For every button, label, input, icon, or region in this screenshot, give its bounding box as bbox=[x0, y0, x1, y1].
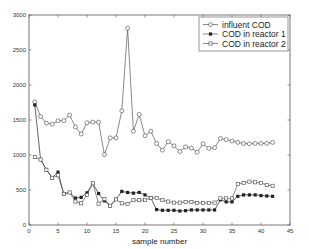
data-point bbox=[190, 200, 193, 203]
data-point bbox=[155, 141, 159, 145]
data-point bbox=[247, 142, 251, 146]
data-point bbox=[271, 140, 275, 144]
data-point bbox=[184, 200, 187, 203]
open-square-marker-icon bbox=[209, 42, 212, 45]
data-point bbox=[161, 199, 164, 202]
data-point bbox=[184, 209, 187, 212]
filled-square-marker-icon bbox=[209, 32, 212, 35]
data-point bbox=[50, 122, 54, 126]
x-tick-label: 10 bbox=[84, 228, 91, 234]
data-point bbox=[126, 26, 130, 30]
data-point bbox=[120, 202, 123, 205]
data-point bbox=[178, 150, 182, 154]
data-point bbox=[143, 199, 146, 202]
data-point bbox=[51, 176, 54, 179]
data-point bbox=[126, 202, 129, 205]
data-point bbox=[39, 158, 42, 161]
data-point bbox=[91, 182, 94, 185]
data-point bbox=[172, 144, 176, 148]
data-point bbox=[265, 194, 268, 197]
data-point bbox=[137, 112, 141, 116]
data-point bbox=[265, 141, 269, 145]
data-point bbox=[132, 192, 135, 195]
data-point bbox=[265, 184, 268, 187]
data-point bbox=[97, 192, 100, 195]
data-point bbox=[218, 137, 222, 141]
data-point bbox=[131, 129, 135, 133]
data-point bbox=[230, 139, 234, 143]
data-point bbox=[213, 201, 216, 204]
data-point bbox=[62, 192, 65, 195]
data-point bbox=[167, 200, 170, 203]
data-point bbox=[33, 103, 36, 106]
data-point bbox=[68, 191, 71, 194]
data-point bbox=[178, 209, 181, 212]
data-point bbox=[201, 208, 204, 211]
x-tick-label: 30 bbox=[200, 228, 207, 234]
legend: influent COD COD in reactor 1 COD in rea… bbox=[199, 17, 288, 51]
data-point bbox=[189, 146, 193, 150]
data-point bbox=[259, 141, 263, 145]
data-point bbox=[56, 171, 59, 174]
data-point bbox=[143, 193, 146, 196]
data-point bbox=[155, 196, 158, 199]
data-point bbox=[80, 202, 83, 205]
data-point bbox=[172, 209, 175, 212]
data-point bbox=[143, 134, 147, 138]
cod-line-chart: 050010001500200025003000 051015202530354… bbox=[0, 0, 309, 249]
data-point bbox=[248, 180, 251, 183]
data-point bbox=[254, 193, 257, 196]
data-point bbox=[248, 193, 251, 196]
data-point bbox=[33, 156, 36, 159]
data-point bbox=[236, 195, 239, 198]
data-point bbox=[33, 100, 37, 104]
x-axis-label: sample number bbox=[132, 237, 187, 246]
data-point bbox=[201, 142, 205, 146]
data-point bbox=[167, 209, 170, 212]
data-point bbox=[102, 153, 106, 157]
data-point bbox=[97, 120, 101, 124]
data-point bbox=[230, 197, 233, 200]
data-point bbox=[62, 119, 66, 123]
data-point bbox=[109, 204, 112, 207]
data-point bbox=[126, 191, 129, 194]
data-point bbox=[120, 190, 123, 193]
data-point bbox=[120, 109, 124, 113]
circle-marker-icon bbox=[209, 23, 213, 27]
data-point bbox=[80, 196, 83, 199]
x-tick-label: 15 bbox=[113, 228, 120, 234]
data-point bbox=[271, 184, 274, 187]
data-point bbox=[155, 208, 158, 211]
data-point bbox=[73, 125, 77, 129]
data-point bbox=[259, 181, 262, 184]
data-point bbox=[254, 181, 257, 184]
x-tick-label: 45 bbox=[287, 228, 294, 234]
data-point bbox=[39, 115, 43, 119]
data-point bbox=[160, 148, 164, 152]
data-point bbox=[91, 120, 95, 124]
data-point bbox=[149, 129, 153, 133]
data-point bbox=[56, 119, 60, 123]
data-point bbox=[74, 200, 77, 203]
data-point bbox=[161, 209, 164, 212]
data-point bbox=[213, 146, 217, 150]
data-point bbox=[196, 208, 199, 211]
data-point bbox=[68, 113, 72, 117]
y-tick-label: 2500 bbox=[13, 47, 27, 53]
data-point bbox=[242, 193, 245, 196]
data-point bbox=[224, 138, 228, 142]
data-point bbox=[108, 136, 112, 140]
legend-label: influent COD bbox=[222, 20, 271, 30]
data-point bbox=[230, 200, 233, 203]
data-point bbox=[236, 182, 239, 185]
data-point bbox=[184, 145, 188, 149]
data-point bbox=[114, 136, 118, 140]
data-point bbox=[242, 181, 245, 184]
legend-label: COD in reactor 1 bbox=[222, 29, 286, 39]
y-tick-label: 500 bbox=[16, 187, 27, 193]
data-point bbox=[195, 150, 199, 154]
x-tick-label: 25 bbox=[171, 228, 178, 234]
data-point bbox=[132, 199, 135, 202]
x-tick-label: 20 bbox=[142, 228, 149, 234]
data-point bbox=[196, 201, 199, 204]
